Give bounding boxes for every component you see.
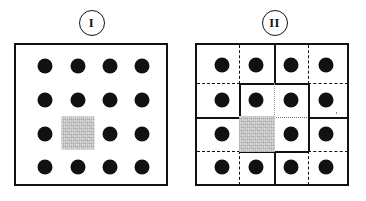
lattice-dot	[37, 59, 52, 74]
lattice-dot	[70, 159, 85, 174]
grid-line-vertical-dashed	[308, 151, 309, 185]
lattice-dot	[214, 92, 229, 107]
lattice-dot	[37, 127, 52, 142]
lattice-dot	[135, 92, 150, 107]
lattice-dot	[70, 92, 85, 107]
lattice-dot	[135, 159, 150, 174]
figure-root: I	[0, 0, 366, 201]
lattice-dot	[135, 59, 150, 74]
scan-artifact-speck	[336, 112, 338, 114]
lattice-dot	[102, 127, 117, 142]
grid-line-horizontal-dashed	[197, 83, 240, 84]
panel-1-label-circle: I	[79, 10, 105, 36]
lattice-dot	[283, 126, 298, 141]
lattice-dot	[283, 58, 298, 73]
lattice-dot	[70, 59, 85, 74]
lattice-dot	[319, 160, 334, 175]
grid-line-horizontal-dashed	[308, 151, 348, 152]
grid-line-vertical-dashed	[308, 45, 309, 84]
lattice-dot	[214, 126, 229, 141]
grid-line-vertical-bold	[308, 83, 310, 152]
grid-line-horizontal-dashed	[197, 151, 240, 152]
panel-2-lattice	[197, 45, 347, 184]
lattice-dot	[214, 58, 229, 73]
grid-line-horizontal-dashed	[308, 83, 348, 84]
lattice-dot	[37, 159, 52, 174]
lattice-dot	[102, 59, 117, 74]
panel-2: II	[183, 0, 366, 201]
lattice-dot	[249, 92, 264, 107]
grid-line-horizontal-solid	[308, 117, 348, 119]
panel-2-frame	[195, 43, 349, 186]
lattice-dot	[135, 127, 150, 142]
panel-2-label-circle: II	[262, 10, 288, 36]
lattice-dot	[102, 92, 117, 107]
panel-1-lattice	[16, 45, 166, 184]
lattice-dot	[102, 159, 117, 174]
lattice-dot	[249, 160, 264, 175]
panel-1: I	[0, 0, 183, 201]
defect-square	[239, 116, 275, 152]
lattice-dot	[283, 160, 298, 175]
grid-line-vertical-dashed	[239, 151, 240, 185]
panel-2-label-text: II	[269, 17, 280, 30]
lattice-dot	[319, 58, 334, 73]
grid-line-vertical-solid	[274, 151, 276, 185]
panel-1-label-text: I	[89, 17, 94, 30]
grid-line-vertical-solid	[274, 45, 276, 84]
defect-square	[62, 117, 95, 150]
lattice-dot	[214, 160, 229, 175]
grid-line-vertical-dashed	[239, 45, 240, 84]
lattice-dot	[283, 92, 298, 107]
lattice-dot	[319, 126, 334, 141]
lattice-dot	[249, 58, 264, 73]
panel-1-frame	[14, 43, 168, 186]
grid-line-horizontal-solid	[197, 117, 240, 119]
lattice-dot	[37, 92, 52, 107]
lattice-dot	[319, 92, 334, 107]
